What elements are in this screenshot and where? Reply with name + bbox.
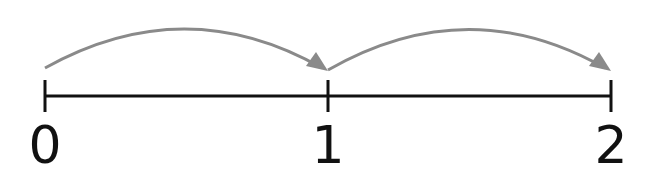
jump-arrow-1-to-2 [328,29,605,70]
arrowhead-icon [589,52,611,71]
jump-arrow-0-to-1 [45,29,322,68]
tick-label-0: 0 [28,115,61,175]
arrowhead-icon [306,52,328,71]
number-line-diagram: 0 1 2 [0,0,652,185]
tick-label-1: 1 [311,115,344,175]
tick-label-2: 2 [594,115,627,175]
